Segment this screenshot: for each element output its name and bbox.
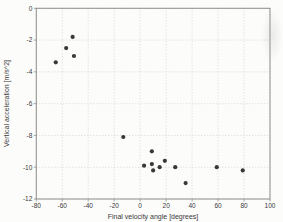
data-point [150,162,154,166]
data-point [150,149,154,153]
x-tick-label: -40 [84,202,94,209]
data-point [215,165,219,169]
data-point [163,159,167,163]
data-points [54,35,245,185]
x-tick-label: 0 [138,202,142,209]
y-tick-label: -12 [23,195,33,202]
axis-ticks [34,8,270,201]
x-tick-label: 40 [188,202,196,209]
y-tick-label: -2 [27,36,33,43]
y-tick-label: 0 [29,5,33,12]
x-tick-label: 100 [265,202,276,209]
x-tick-label: 80 [240,202,248,209]
data-point [142,164,146,168]
data-point [72,54,76,58]
data-point [158,165,162,169]
scatter-figure: -80-60-40-200204060801000-2-4-6-8-10-12 … [0,0,283,222]
x-tick-label: 20 [163,202,171,209]
y-axis-label: Vertical acceleration [m/s^2] [3,60,11,147]
data-point [184,181,188,185]
y-tick-label: -10 [23,164,33,171]
x-tick-label: -20 [109,202,119,209]
x-axis-label: Final velocity angle [degrees] [108,213,199,221]
x-tick-label: 60 [214,202,222,209]
x-tick-label: -60 [58,202,68,209]
tick-labels: -80-60-40-200204060801000-2-4-6-8-10-12 [23,5,276,209]
data-point [121,135,125,139]
data-point [241,168,245,172]
data-point [54,60,58,64]
data-point [151,168,155,172]
y-tick-label: -6 [27,100,33,107]
x-tick-label: -80 [32,202,42,209]
y-tick-label: -8 [27,132,33,139]
data-point [71,35,75,39]
y-tick-label: -4 [27,68,33,75]
data-point [173,165,177,169]
data-point [64,46,68,50]
scatter-plot: -80-60-40-200204060801000-2-4-6-8-10-12 … [0,0,283,222]
